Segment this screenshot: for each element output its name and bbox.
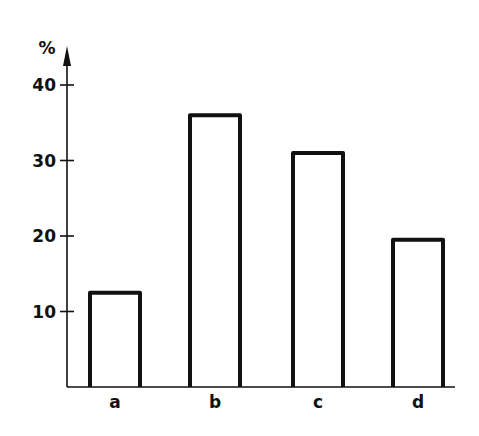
- y-axis-unit-label: %: [38, 38, 55, 58]
- bars: [90, 115, 443, 387]
- x-tick-label: c: [313, 392, 323, 412]
- y-tick-label: 40: [32, 75, 56, 95]
- y-tick-label: 20: [32, 226, 56, 246]
- x-tick-label: d: [412, 392, 424, 412]
- y-tick-label: 10: [32, 302, 56, 322]
- bar-d: [393, 240, 443, 387]
- bar-a: [90, 293, 140, 387]
- bar-b: [190, 115, 240, 387]
- bar-c: [293, 153, 343, 387]
- bar-chart: 10203040%abcd: [0, 0, 479, 436]
- x-tick-label: a: [109, 392, 120, 412]
- y-tick-label: 30: [32, 151, 56, 171]
- axes: [60, 46, 455, 387]
- y-axis-arrow-icon: [63, 46, 71, 66]
- x-tick-label: b: [209, 392, 221, 412]
